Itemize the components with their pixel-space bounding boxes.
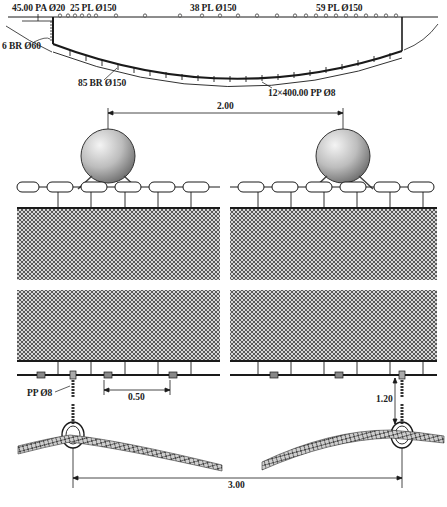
float-hangers [58,192,423,208]
float-left [78,129,138,189]
float-spacing-value: 2.00 [217,102,234,112]
bridle-leader-line [55,386,70,392]
bridle-label: PP Ø8 [27,389,52,399]
float-right [313,129,373,189]
float-line-left [17,182,220,192]
headline-label: 45.00 PA Ø20 [12,4,65,14]
purse-ring-left [62,422,84,448]
seine-net-diagram [0,0,447,507]
lead-line-right [230,371,437,379]
lead-line-left [17,371,220,379]
wing-sinker-label: 6 BR Ø60 [2,42,41,52]
float-label-middle: 38 PL Ø150 [190,4,237,14]
purse-line-right [262,430,444,470]
float-line-right [230,182,434,192]
purse-line-left [18,435,222,471]
lead-hangers [58,361,423,375]
sinker-spacing-value: 0.50 [128,393,145,403]
netting-right [230,208,437,361]
purse-ring-label: 12×400.00 PP Ø8 [268,89,336,99]
ring-spacing-value: 3.00 [228,481,245,491]
float-label-right: 59 PL Ø150 [316,4,363,14]
bridle-length-dimension [393,378,397,424]
float-label-left: 25 PL Ø150 [70,4,117,14]
overview-net-outline [6,14,438,88]
sinker-label: 85 BR Ø150 [78,79,126,89]
netting-left [17,208,220,361]
bridle-length-value: 1.20 [376,395,393,405]
